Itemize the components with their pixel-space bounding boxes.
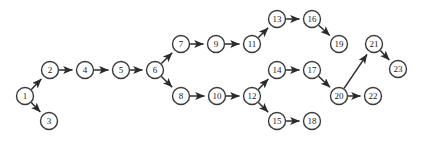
node-label-17: 17 — [308, 65, 318, 75]
node-label-4: 4 — [83, 65, 88, 75]
graph-node-4[interactable]: 4 — [77, 62, 94, 79]
node-label-22: 22 — [369, 91, 378, 101]
node-label-14: 14 — [273, 65, 283, 75]
node-label-7: 7 — [179, 39, 184, 49]
node-label-21: 21 — [370, 39, 379, 49]
node-label-5: 5 — [119, 65, 124, 75]
node-label-8: 8 — [179, 91, 184, 101]
graph-edge-11-to-13 — [258, 28, 268, 38]
graph-node-9[interactable]: 9 — [208, 36, 225, 53]
graph-node-23[interactable]: 23 — [390, 61, 407, 78]
graph-node-10[interactable]: 10 — [209, 88, 226, 105]
node-label-18: 18 — [308, 116, 318, 126]
graph-node-16[interactable]: 16 — [304, 11, 321, 28]
graph-node-11[interactable]: 11 — [244, 36, 261, 53]
node-label-6: 6 — [153, 65, 158, 75]
graph-edge-1-to-3 — [31, 103, 40, 112]
graph-edge-6-to-8 — [161, 76, 172, 87]
node-label-13: 13 — [273, 14, 283, 24]
graph-edge-6-to-7 — [161, 53, 172, 64]
graph-node-7[interactable]: 7 — [173, 36, 190, 53]
graph-node-21[interactable]: 21 — [366, 36, 383, 53]
node-label-20: 20 — [335, 91, 345, 101]
node-label-15: 15 — [273, 116, 283, 126]
graph-edge-21-to-23 — [380, 51, 389, 60]
node-label-2: 2 — [48, 65, 53, 75]
graph-node-20[interactable]: 20 — [331, 88, 348, 105]
node-label-19: 19 — [335, 39, 345, 49]
graph-edge-20-to-21 — [344, 54, 367, 88]
node-label-16: 16 — [308, 14, 318, 24]
graph-node-12[interactable]: 12 — [244, 88, 261, 105]
graph-node-1[interactable]: 1 — [17, 88, 34, 105]
graph-edge-12-to-14 — [258, 79, 268, 89]
graph-node-19[interactable]: 19 — [331, 36, 348, 53]
node-label-3: 3 — [47, 116, 52, 126]
node-label-9: 9 — [214, 39, 219, 49]
node-label-23: 23 — [394, 64, 404, 74]
graph-node-22[interactable]: 22 — [365, 88, 382, 105]
graph-diagram: 1234567891011121314151617181920212223 — [0, 0, 421, 144]
node-label-1: 1 — [23, 91, 28, 101]
graph-edge-16-to-19 — [319, 25, 330, 35]
graph-node-6[interactable]: 6 — [147, 62, 164, 79]
node-label-10: 10 — [213, 91, 223, 101]
graph-edge-12-to-15 — [258, 102, 268, 112]
graph-node-3[interactable]: 3 — [41, 113, 58, 130]
node-label-11: 11 — [248, 39, 257, 49]
graph-node-2[interactable]: 2 — [42, 62, 59, 79]
graph-node-13[interactable]: 13 — [269, 11, 286, 28]
graph-node-18[interactable]: 18 — [304, 113, 321, 130]
nodes-layer: 1234567891011121314151617181920212223 — [17, 11, 407, 130]
graph-edge-1-to-2 — [31, 79, 41, 89]
node-label-12: 12 — [248, 91, 257, 101]
graph-node-5[interactable]: 5 — [113, 62, 130, 79]
graph-node-15[interactable]: 15 — [269, 113, 286, 130]
graph-node-14[interactable]: 14 — [269, 62, 286, 79]
graph-node-8[interactable]: 8 — [173, 88, 190, 105]
graph-node-17[interactable]: 17 — [304, 62, 321, 79]
graph-edge-17-to-20 — [319, 76, 330, 87]
